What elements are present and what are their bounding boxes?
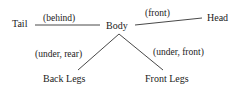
node-head: Head [207,12,228,23]
edge-body-back-legs [78,34,119,70]
edge-label-under-front: (under, front) [153,47,204,58]
node-back-legs: Back Legs [43,73,86,84]
edge-label-under-rear: (under, rear) [35,49,82,60]
part-relation-diagram: Tail Body Head Back Legs Front Legs (beh… [0,0,245,88]
edge-label-front: (front) [145,8,170,19]
node-body: Body [106,20,128,31]
edge-label-behind: (behind) [43,13,75,24]
node-front-legs: Front Legs [145,73,189,84]
node-tail: Tail [12,18,28,29]
edge-body-head [135,18,202,25]
